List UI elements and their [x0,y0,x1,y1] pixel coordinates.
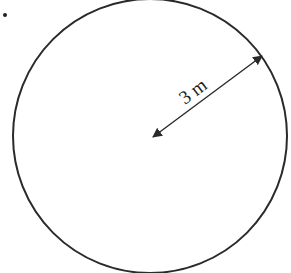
circle-outline [13,0,287,273]
question-marker-dot [3,13,7,17]
radius-label: 3 m [175,74,211,108]
circle-diagram: 3 m [0,0,291,273]
radius-arrow [153,56,262,137]
